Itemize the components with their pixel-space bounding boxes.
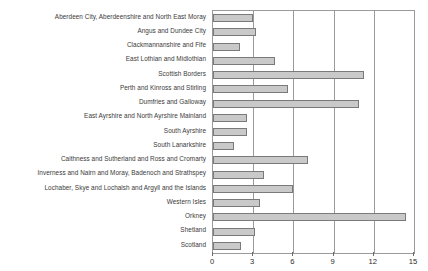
x-axis-tick	[333, 252, 334, 256]
category-label: Shetland	[0, 224, 210, 238]
category-label: East Ayrshire and North Ayrshire Mainlan…	[0, 110, 210, 124]
bar-row	[213, 153, 414, 167]
bar-row	[213, 82, 414, 96]
bar-row	[213, 68, 414, 82]
category-label: Caithness and Sutherland and Ross and Cr…	[0, 152, 210, 166]
bars-container	[213, 11, 414, 253]
bar-row	[213, 111, 414, 125]
bar-row	[213, 54, 414, 68]
bar-row	[213, 96, 414, 110]
bar[interactable]	[213, 213, 406, 221]
x-axis: 03691215	[212, 252, 414, 271]
category-label: Perth and Kinross and Stirling	[0, 81, 210, 95]
category-label: Scottish Borders	[0, 67, 210, 81]
category-axis-labels: Aberdeen City, Aberdeenshire and North E…	[0, 10, 210, 252]
category-label: Angus and Dundee City	[0, 24, 210, 38]
bar[interactable]	[213, 185, 293, 193]
bar[interactable]	[213, 28, 256, 36]
x-axis-tick	[292, 252, 293, 256]
category-label: Western Isles	[0, 195, 210, 209]
bar[interactable]	[213, 57, 275, 65]
bar[interactable]	[213, 228, 255, 236]
bar[interactable]	[213, 242, 241, 250]
bar[interactable]	[213, 71, 364, 79]
x-axis-tick-label: 9	[330, 257, 334, 266]
bar[interactable]	[213, 114, 247, 122]
bar-row	[213, 39, 414, 53]
bar-row	[213, 25, 414, 39]
category-label: Clackmannanshire and Fife	[0, 38, 210, 52]
category-label: East Lothian and Midlothian	[0, 53, 210, 67]
bar[interactable]	[213, 142, 234, 150]
x-axis-tick-label: 0	[210, 257, 214, 266]
x-axis-tick	[413, 252, 414, 256]
x-axis-tick-label: 6	[290, 257, 294, 266]
bar-row	[213, 182, 414, 196]
bar-row	[213, 210, 414, 224]
bar-row	[213, 11, 414, 25]
bar[interactable]	[213, 14, 253, 22]
bar-row	[213, 168, 414, 182]
x-axis-tick	[212, 252, 213, 256]
bar[interactable]	[213, 171, 264, 179]
bar-row	[213, 225, 414, 239]
x-axis-tick-label: 12	[369, 257, 377, 266]
category-label: Orkney	[0, 209, 210, 223]
bar-row	[213, 239, 414, 253]
horizontal-bar-chart: Aberdeen City, Aberdeenshire and North E…	[0, 0, 428, 271]
category-label: Inverness and Nairn and Moray, Badenoch …	[0, 167, 210, 181]
plot-area	[212, 10, 415, 254]
x-axis-tick-label: 15	[409, 257, 417, 266]
bar-row	[213, 139, 414, 153]
x-axis-tick-label: 3	[250, 257, 254, 266]
bar-row	[213, 196, 414, 210]
category-label: Aberdeen City, Aberdeenshire and North E…	[0, 10, 210, 24]
bar[interactable]	[213, 100, 359, 108]
category-label: South Ayrshire	[0, 124, 210, 138]
bar[interactable]	[213, 156, 308, 164]
bar[interactable]	[213, 43, 240, 51]
x-axis-tick	[373, 252, 374, 256]
bar[interactable]	[213, 128, 247, 136]
bar[interactable]	[213, 199, 260, 207]
category-label: Lochaber, Skye and Lochalsh and Argyll a…	[0, 181, 210, 195]
bar-row	[213, 125, 414, 139]
category-label: South Lanarkshire	[0, 138, 210, 152]
category-label: Dumfries and Galloway	[0, 95, 210, 109]
category-label: Scotland	[0, 238, 210, 252]
bar[interactable]	[213, 85, 288, 93]
x-axis-tick	[252, 252, 253, 256]
